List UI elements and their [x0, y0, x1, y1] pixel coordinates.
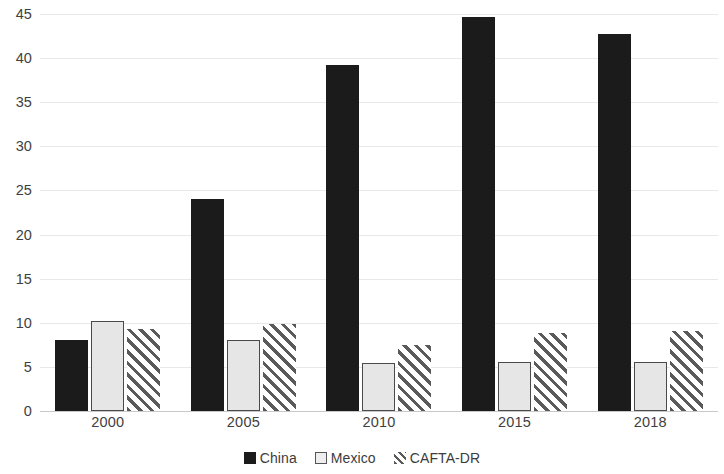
bar-cafta-dr-2018[interactable] [670, 331, 703, 411]
bar-cafta-dr-2010[interactable] [398, 345, 431, 411]
x-axis-tick-label-2018: 2018 [582, 414, 718, 430]
legend-label: CAFTA-DR [410, 450, 481, 466]
legend-item-china[interactable]: China [244, 450, 297, 466]
legend-swatch-hatched-icon [394, 452, 406, 464]
bar-group-2010 [311, 14, 447, 411]
y-axis-tick-label: 25 [0, 182, 32, 198]
legend-item-mexico[interactable]: Mexico [315, 450, 376, 466]
bar-china-2005[interactable] [191, 199, 224, 411]
bar-chart: 454035302520151050 20002005201020152018 … [0, 0, 724, 474]
y-axis-tick-label: 40 [0, 50, 32, 66]
bar-group-2000 [40, 14, 176, 411]
bar-cafta-dr-2005[interactable] [263, 324, 296, 411]
bar-china-2000[interactable] [55, 340, 88, 411]
bar-mexico-2018[interactable] [634, 362, 667, 411]
legend-swatch-solid-black-icon [244, 452, 256, 464]
bar-group-2015 [447, 14, 583, 411]
bar-china-2010[interactable] [326, 65, 359, 411]
x-axis-tick-label-2000: 2000 [40, 414, 176, 430]
y-axis-tick-label: 15 [0, 271, 32, 287]
y-axis-tick-label: 0 [0, 403, 32, 419]
y-axis-tick-label: 10 [0, 315, 32, 331]
y-axis-tick-label: 35 [0, 94, 32, 110]
bar-mexico-2000[interactable] [91, 321, 124, 411]
bar-group-2018 [582, 14, 718, 411]
legend-label: China [260, 450, 297, 466]
x-axis-tick-label-2005: 2005 [176, 414, 312, 430]
bar-groups [40, 14, 718, 411]
bar-cafta-dr-2015[interactable] [534, 333, 567, 411]
legend-swatch-outlined-light-icon [315, 452, 327, 464]
bar-china-2018[interactable] [598, 34, 631, 411]
bar-mexico-2005[interactable] [227, 340, 260, 411]
bar-cafta-dr-2000[interactable] [127, 329, 160, 411]
y-axis-tick-label: 30 [0, 138, 32, 154]
bar-mexico-2010[interactable] [362, 363, 395, 411]
bar-group-2005 [176, 14, 312, 411]
legend-label: Mexico [331, 450, 376, 466]
gridline [40, 411, 718, 412]
x-axis-tick-label-2015: 2015 [447, 414, 583, 430]
bar-china-2015[interactable] [462, 17, 495, 411]
bar-mexico-2015[interactable] [498, 362, 531, 411]
legend-item-cafta-dr[interactable]: CAFTA-DR [394, 450, 481, 466]
x-axis-tick-label-2010: 2010 [311, 414, 447, 430]
chart-legend: ChinaMexicoCAFTA-DR [0, 450, 724, 466]
x-axis-tick-labels: 20002005201020152018 [40, 414, 718, 430]
y-axis-tick-label: 45 [0, 6, 32, 22]
y-axis-tick-label: 5 [0, 359, 32, 375]
y-axis-tick-label: 20 [0, 227, 32, 243]
